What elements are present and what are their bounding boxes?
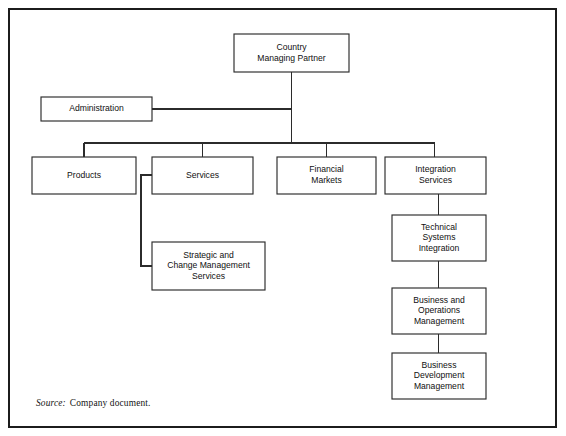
source-text: Company document.	[70, 398, 151, 408]
org-node-label: Services	[192, 271, 225, 281]
org-node-label: Services	[186, 170, 219, 180]
org-node-label: Markets	[311, 175, 342, 185]
org-node-integration-services[interactable]: IntegrationServices	[385, 157, 486, 194]
org-node-label: Administration	[69, 103, 124, 113]
org-node-products[interactable]: Products	[32, 157, 136, 194]
org-node-label: Managing Partner	[257, 53, 325, 63]
figure-frame: CountryManaging PartnerAdministrationPro…	[8, 8, 557, 428]
org-node-label: Business and	[413, 295, 465, 305]
org-node-business-development-management[interactable]: BusinessDevelopmentManagement	[392, 353, 486, 399]
org-node-label: Development	[414, 370, 465, 380]
org-chart-canvas: CountryManaging PartnerAdministrationPro…	[10, 10, 559, 430]
node-layer: CountryManaging PartnerAdministrationPro…	[32, 34, 486, 399]
source-note: Source:Company document.	[36, 398, 151, 408]
org-node-label: Operations	[418, 305, 460, 315]
org-node-label: Products	[67, 170, 101, 180]
org-node-label: Change Management	[167, 260, 250, 270]
org-node-services[interactable]: Services	[152, 157, 253, 194]
org-node-label: Management	[414, 316, 465, 326]
org-node-business-and-operations-management[interactable]: Business andOperationsManagement	[392, 288, 486, 334]
org-node-label: Integration	[419, 243, 460, 253]
org-node-label: Services	[419, 175, 452, 185]
org-node-label: Management	[414, 381, 465, 391]
org-node-administration[interactable]: Administration	[41, 97, 152, 121]
org-node-strategic-and-change-management-services[interactable]: Strategic andChange ManagementServices	[152, 242, 265, 290]
connector-services-to-strategic-elbow	[141, 175, 152, 266]
source-label: Source:	[36, 398, 66, 408]
org-node-technical-systems-integration[interactable]: TechnicalSystemsIntegration	[392, 215, 486, 261]
org-node-label: Technical	[421, 222, 457, 232]
org-node-label: Systems	[423, 232, 456, 242]
org-node-label: Financial	[309, 164, 343, 174]
org-node-label: Business	[422, 360, 457, 370]
org-node-country-managing-partner[interactable]: CountryManaging Partner	[234, 34, 349, 72]
org-node-label: Strategic and	[183, 250, 234, 260]
org-node-label: Integration	[415, 164, 456, 174]
org-node-label: Country	[276, 42, 307, 52]
org-node-financial-markets[interactable]: FinancialMarkets	[277, 157, 376, 194]
